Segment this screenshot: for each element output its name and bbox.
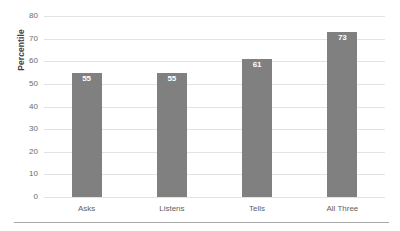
bar-chart: Percentile 80 70 60 50 40 30 20: [0, 0, 400, 231]
y-tick-label-0: 0: [34, 193, 38, 201]
bar-value-tells: 61: [242, 61, 272, 70]
y-tick-label-20: 20: [29, 148, 38, 156]
category-label-tells: Tells: [249, 204, 265, 213]
bar-group-listens: 55 Listens: [129, 16, 214, 197]
y-tick-label-30: 30: [29, 125, 38, 133]
bar-all-three[interactable]: 73: [327, 32, 357, 197]
plot-area: 80 70 60 50 40 30 20 10: [44, 16, 385, 197]
bottom-divider: [14, 222, 389, 223]
bar-value-asks: 55: [72, 75, 102, 84]
y-tick-label-50: 50: [29, 80, 38, 88]
y-tick-label-10: 10: [29, 170, 38, 178]
bar-value-all-three: 73: [327, 34, 357, 43]
bar-value-listens: 55: [157, 75, 187, 84]
y-tick-label-80: 80: [29, 12, 38, 20]
y-tick-label-40: 40: [29, 103, 38, 111]
y-tick-label-60: 60: [29, 57, 38, 65]
bar-tells[interactable]: 61: [242, 59, 272, 197]
category-label-asks: Asks: [78, 204, 95, 213]
bar-group-all-three: 73 All Three: [300, 16, 385, 197]
bar-group-tells: 61 Tells: [215, 16, 300, 197]
bar-group-asks: 55 Asks: [44, 16, 129, 197]
y-tick-label-70: 70: [29, 35, 38, 43]
bars-layer: 55 Asks 55 Listens 61 Tells 73: [44, 16, 385, 197]
y-axis-title: Percentile: [16, 0, 30, 150]
gridline-0: 0: [44, 197, 385, 198]
category-label-all-three: All Three: [326, 204, 358, 213]
bar-asks[interactable]: 55: [72, 73, 102, 197]
bar-listens[interactable]: 55: [157, 73, 187, 197]
category-label-listens: Listens: [159, 204, 184, 213]
